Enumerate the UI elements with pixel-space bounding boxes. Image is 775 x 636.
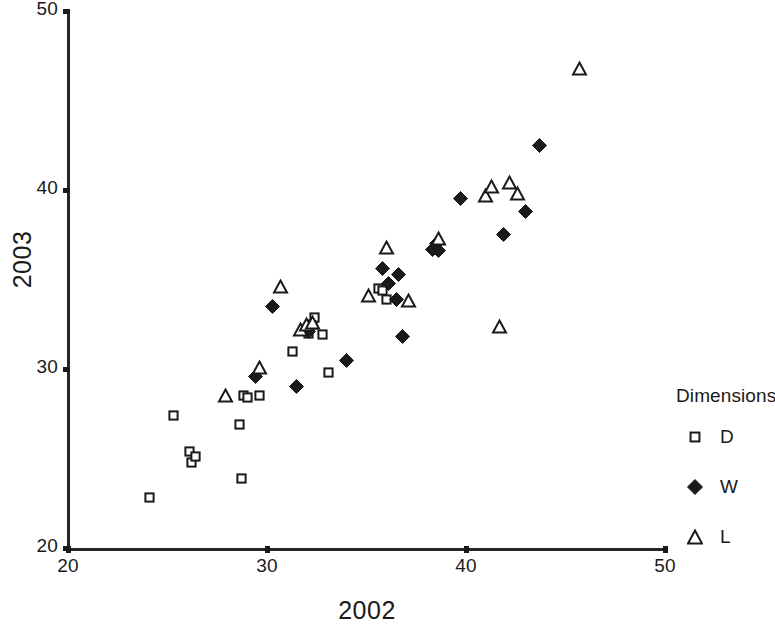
filled-diamond-icon xyxy=(686,478,704,496)
data-point-l xyxy=(252,360,267,375)
legend-entry-w[interactable]: W xyxy=(676,475,775,499)
data-point-w xyxy=(339,353,354,368)
legend-entry-l[interactable]: L xyxy=(676,525,775,549)
data-point-w xyxy=(453,191,468,206)
data-point-w xyxy=(375,261,390,276)
open-square-icon xyxy=(686,428,704,446)
legend-entries: DWL xyxy=(676,425,775,549)
legend-entry-d[interactable]: D xyxy=(676,425,775,449)
data-point-l xyxy=(484,179,499,194)
data-point-w xyxy=(391,267,406,282)
data-point-d xyxy=(232,417,247,432)
plot-area xyxy=(0,0,775,636)
data-point-l xyxy=(510,186,525,201)
legend-label: D xyxy=(720,426,734,448)
data-point-l xyxy=(572,61,587,76)
data-point-w xyxy=(518,204,533,219)
data-point-l xyxy=(401,293,416,308)
data-point-d xyxy=(166,408,181,423)
data-point-l xyxy=(431,231,446,246)
legend-label: W xyxy=(720,476,738,498)
scatter-chart-figure: 2030405020304050 2003 2002 Dimensions DW… xyxy=(0,0,775,636)
data-point-l xyxy=(218,388,233,403)
data-point-d xyxy=(188,449,203,464)
data-point-l xyxy=(305,315,320,330)
data-point-d xyxy=(285,344,300,359)
data-point-l xyxy=(492,319,507,334)
data-point-w xyxy=(496,227,511,242)
data-point-w xyxy=(532,138,547,153)
legend: Dimensions DWL xyxy=(676,385,775,575)
data-point-w xyxy=(395,329,410,344)
data-point-l xyxy=(361,288,376,303)
data-point-d xyxy=(252,388,267,403)
data-point-d xyxy=(321,365,336,380)
data-point-w xyxy=(265,299,280,314)
data-point-l xyxy=(379,240,394,255)
legend-label: L xyxy=(720,526,731,548)
data-point-d xyxy=(234,471,249,486)
data-point-d xyxy=(142,490,157,505)
data-point-w xyxy=(289,379,304,394)
data-point-l xyxy=(273,279,288,294)
open-triangle-icon xyxy=(686,528,704,546)
legend-title: Dimensions xyxy=(676,385,775,407)
